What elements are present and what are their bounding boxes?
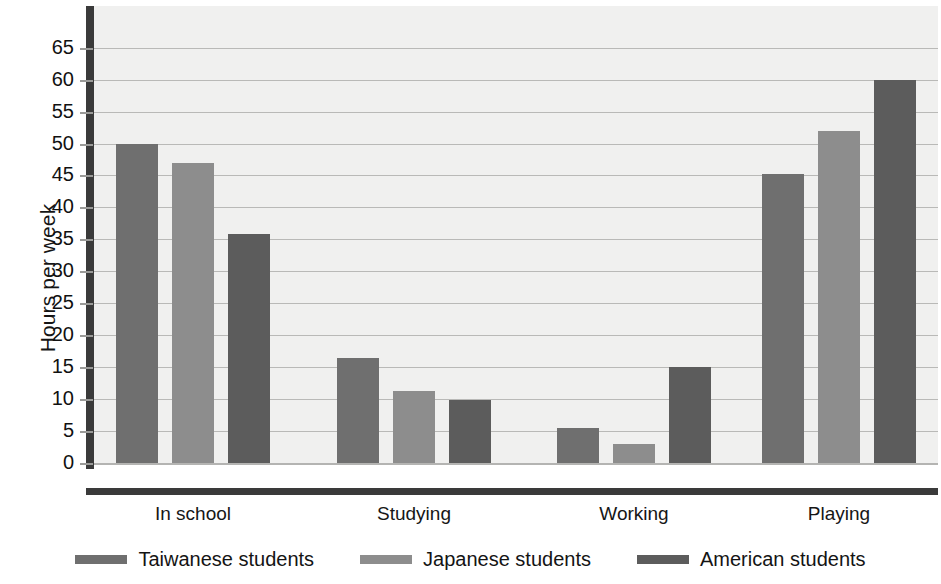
y-axis-tick-mark: [80, 48, 93, 50]
x-axis-category-label: Playing: [762, 503, 916, 525]
bar: [228, 234, 270, 463]
gridline: [93, 239, 938, 240]
y-axis-tick-label: 40: [26, 196, 74, 216]
bar: [172, 163, 214, 463]
bar: [449, 400, 491, 463]
legend-label: Taiwanese students: [138, 548, 314, 571]
bar: [874, 80, 916, 463]
bar: [557, 428, 599, 463]
gridline: [93, 48, 938, 49]
y-axis-tick-label: 45: [26, 164, 74, 184]
bar: [613, 444, 655, 463]
y-axis-tick-mark: [80, 144, 93, 146]
gridline: [93, 303, 938, 304]
x-axis-category-label: In school: [116, 503, 270, 525]
y-axis-tick-label: 15: [26, 356, 74, 376]
chart-legend: Taiwanese studentsJapanese studentsAmeri…: [0, 548, 941, 571]
legend-item: Taiwanese students: [75, 548, 314, 571]
gridline: [93, 112, 938, 113]
bar: [762, 174, 804, 463]
bar: [116, 144, 158, 464]
y-axis-tick-mark: [80, 175, 93, 177]
bar-chart: Hours per week 0510152025303540455055606…: [0, 0, 941, 584]
y-axis-tick-label: 25: [26, 292, 74, 312]
gridline: [93, 367, 938, 368]
gridline: [93, 431, 938, 432]
y-axis-tick-mark: [80, 399, 93, 401]
y-axis-tick-label: 20: [26, 324, 74, 344]
y-axis-tick-mark: [80, 239, 93, 241]
x-axis-category-label: Working: [557, 503, 711, 525]
y-axis-tick-mark: [80, 335, 93, 337]
y-axis-tick-mark: [80, 80, 93, 82]
bar: [393, 391, 435, 463]
bar: [669, 367, 711, 463]
legend-swatch-icon: [637, 555, 689, 564]
gridline: [93, 144, 938, 145]
legend-swatch-icon: [75, 555, 127, 564]
bar: [337, 358, 379, 463]
gridline: [93, 399, 938, 400]
gridline: [93, 175, 938, 176]
y-axis-tick-mark: [80, 112, 93, 114]
gridline: [93, 463, 938, 465]
y-axis-tick-label: 10: [26, 388, 74, 408]
y-axis-tick-label: 0: [26, 452, 74, 472]
y-axis-tick-mark: [80, 271, 93, 273]
y-axis-tick-label: 60: [26, 69, 74, 89]
y-axis-tick-mark: [80, 431, 93, 433]
y-axis-tick-label: 55: [26, 101, 74, 121]
legend-label: Japanese students: [423, 548, 591, 571]
y-axis-tick-label: 30: [26, 260, 74, 280]
legend-swatch-icon: [360, 555, 412, 564]
y-axis-tick-mark: [80, 207, 93, 209]
y-axis-tick-mark: [80, 367, 93, 369]
legend-label: American students: [700, 548, 866, 571]
y-axis-tick-label: 35: [26, 228, 74, 248]
gridline: [93, 271, 938, 272]
gridline: [93, 207, 938, 208]
gridline: [93, 80, 938, 81]
x-axis-spine: [86, 488, 938, 495]
y-axis-tick-mark: [80, 463, 93, 465]
y-axis-tick-label: 65: [26, 37, 74, 57]
y-axis-tick-mark: [80, 303, 93, 305]
gridline: [93, 335, 938, 336]
bar: [818, 131, 860, 463]
legend-item: American students: [637, 548, 866, 571]
legend-item: Japanese students: [360, 548, 591, 571]
y-axis-tick-label: 5: [26, 420, 74, 440]
x-axis-category-label: Studying: [337, 503, 491, 525]
y-axis-tick-label: 50: [26, 133, 74, 153]
plot-area: [93, 6, 938, 463]
